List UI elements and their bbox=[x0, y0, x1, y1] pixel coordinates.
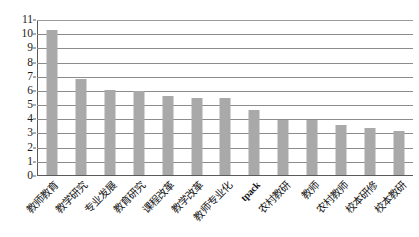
bar[interactable] bbox=[133, 91, 144, 175]
y-axis-tick-mark bbox=[33, 105, 36, 106]
bar-slot bbox=[211, 20, 240, 175]
bar-slot bbox=[125, 20, 154, 175]
y-axis-tick-mark bbox=[33, 133, 36, 134]
bar-slot bbox=[269, 20, 298, 175]
bar-slot bbox=[182, 20, 211, 175]
bar-slot bbox=[384, 20, 413, 175]
bar[interactable] bbox=[162, 96, 173, 175]
y-axis-tick-label: 10 bbox=[22, 28, 34, 40]
y-axis-tick-label: 11 bbox=[22, 14, 33, 26]
bar[interactable] bbox=[220, 98, 231, 175]
bar[interactable] bbox=[307, 120, 318, 175]
y-axis-tick-mark bbox=[33, 119, 36, 120]
y-axis-tick-mark bbox=[33, 48, 36, 49]
y-axis-tick-mark bbox=[33, 76, 36, 77]
x-axis-tick-label: 教师教育 bbox=[25, 180, 60, 216]
bar[interactable] bbox=[249, 110, 260, 175]
y-axis-tick-mark bbox=[33, 176, 36, 177]
x-axis-tick-label: tpack bbox=[239, 180, 262, 204]
bar-slot bbox=[153, 20, 182, 175]
y-axis-tick-mark bbox=[33, 147, 36, 148]
bar[interactable] bbox=[364, 128, 375, 175]
x-axis-tick-labels: 教师教育教学研究专业发展教育研究课程改革教学改革教师专业化tpack农村教研教师… bbox=[38, 178, 414, 237]
bar-slot bbox=[67, 20, 96, 175]
bar[interactable] bbox=[191, 98, 202, 175]
x-label-slot: 校本教研 bbox=[385, 178, 414, 237]
bars-group bbox=[38, 20, 413, 175]
bar-slot bbox=[355, 20, 384, 175]
y-axis-tick-mark bbox=[33, 34, 36, 35]
bar[interactable] bbox=[278, 120, 289, 175]
y-axis-tick-mark bbox=[33, 90, 36, 91]
bar-slot bbox=[240, 20, 269, 175]
bar-slot bbox=[326, 20, 355, 175]
x-axis-tick-label: 教师 bbox=[299, 180, 321, 202]
bar[interactable] bbox=[335, 125, 346, 175]
bar-slot bbox=[298, 20, 327, 175]
bar[interactable] bbox=[393, 131, 404, 175]
bar[interactable] bbox=[47, 30, 58, 175]
bar[interactable] bbox=[105, 90, 116, 175]
y-axis-tick-mark bbox=[33, 62, 36, 63]
plot-area: 11109876543210 bbox=[37, 20, 413, 176]
x-label-slot: 农村教研 bbox=[269, 178, 298, 237]
bar[interactable] bbox=[76, 79, 87, 175]
x-axis-line bbox=[37, 175, 413, 176]
x-label-slot: 教师专业化 bbox=[212, 178, 241, 237]
y-axis-tick-mark bbox=[33, 161, 36, 162]
bar-slot bbox=[38, 20, 67, 175]
bar-slot bbox=[96, 20, 125, 175]
y-axis-tick-mark bbox=[33, 20, 36, 21]
bar-chart: 11109876543210 教师教育教学研究专业发展教育研究课程改革教学改革教… bbox=[0, 0, 419, 237]
